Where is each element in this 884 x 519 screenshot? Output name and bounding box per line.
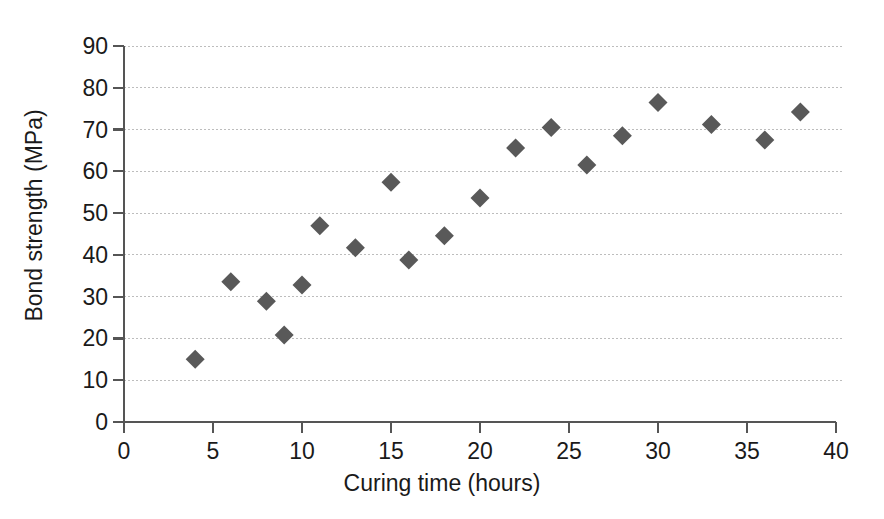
data-point — [542, 118, 561, 137]
data-point — [399, 250, 418, 269]
axis-ticks — [113, 46, 836, 433]
data-point — [702, 115, 721, 134]
data-point — [791, 103, 810, 122]
data-point — [257, 292, 276, 311]
data-point — [293, 275, 312, 294]
x-tick-label: 0 — [118, 440, 131, 463]
data-point — [755, 131, 774, 150]
gridlines — [124, 46, 843, 380]
y-axis-title-container: Bond strength (MPa) — [14, 0, 54, 430]
data-point-markers — [186, 93, 810, 369]
y-axis-title: Bond strength (MPa) — [21, 109, 48, 321]
data-point — [471, 189, 490, 208]
data-point — [506, 138, 525, 157]
data-point — [435, 226, 454, 245]
x-tick-label: 35 — [734, 440, 760, 463]
scatter-chart: 0102030405060708090 0510152025303540 Bon… — [0, 0, 884, 519]
x-axis-title: Curing time (hours) — [0, 470, 884, 497]
x-tick-label: 15 — [378, 440, 404, 463]
x-tick-label: 30 — [645, 440, 671, 463]
x-tick-label: 40 — [823, 440, 849, 463]
data-point — [221, 272, 240, 291]
data-point — [382, 173, 401, 192]
x-tick-label: 5 — [207, 440, 220, 463]
data-point — [310, 216, 329, 235]
x-tick-label: 10 — [289, 440, 315, 463]
axis-lines — [124, 46, 836, 422]
data-point — [649, 93, 668, 112]
x-tick-label: 25 — [556, 440, 582, 463]
data-point — [275, 326, 294, 345]
x-tick-label: 20 — [467, 440, 493, 463]
data-point — [186, 350, 205, 369]
